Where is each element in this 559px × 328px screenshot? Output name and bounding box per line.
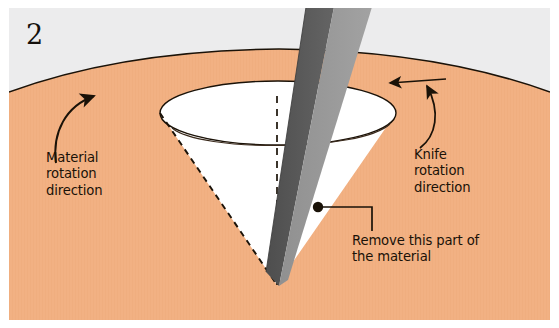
material-rotation-label: Material rotation direction xyxy=(46,150,102,199)
knife-rotation-label: Knife rotation direction xyxy=(414,147,470,196)
panel-number: 2 xyxy=(26,21,43,48)
technical-illustration-panel: 2 Material rotation direction Knife rota… xyxy=(0,0,559,328)
remove-part-label: Remove this part of the material xyxy=(352,233,479,266)
